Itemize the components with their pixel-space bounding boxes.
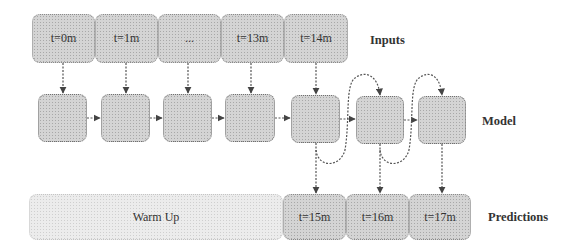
connector-arrows	[0, 0, 577, 244]
